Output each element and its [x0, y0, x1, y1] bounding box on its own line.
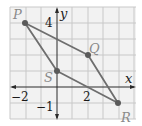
label-S: S — [44, 70, 53, 85]
label-Q: Q — [89, 41, 100, 56]
point-R — [115, 100, 121, 106]
y-axis-label: y — [59, 6, 68, 21]
point-P — [22, 20, 28, 26]
point-S — [54, 68, 60, 74]
label-R: R — [120, 110, 131, 125]
tick-label-y-4: 4 — [45, 16, 53, 30]
tick-label-y-neg1: −1 — [36, 100, 54, 114]
tick-label-x-2: 2 — [83, 90, 91, 104]
tick-label-x-neg2: −2 — [11, 90, 29, 104]
label-P: P — [12, 7, 22, 22]
x-axis-label: x — [125, 71, 133, 86]
coordinate-diagram: P Q R S x y 4 −2 2 −1 — [0, 0, 142, 126]
